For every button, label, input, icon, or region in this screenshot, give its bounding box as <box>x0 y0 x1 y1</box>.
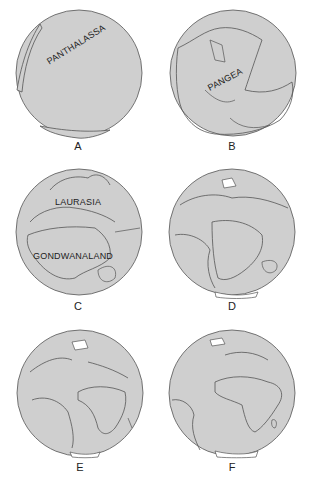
globe-d <box>169 169 295 299</box>
globe-c <box>16 169 142 295</box>
label-gondwanaland: GONDWANALAND <box>33 251 113 261</box>
label-laurasia: LAURASIA <box>55 197 101 207</box>
globes-canvas <box>0 0 311 484</box>
caption-d: D <box>222 300 242 312</box>
caption-c: C <box>68 300 88 312</box>
globe-a <box>16 10 142 138</box>
globe-f <box>169 330 295 458</box>
caption-e: E <box>70 461 90 473</box>
caption-f: F <box>222 461 242 473</box>
caption-b: B <box>222 140 242 152</box>
caption-a: A <box>68 140 88 152</box>
globe-e <box>17 330 143 458</box>
